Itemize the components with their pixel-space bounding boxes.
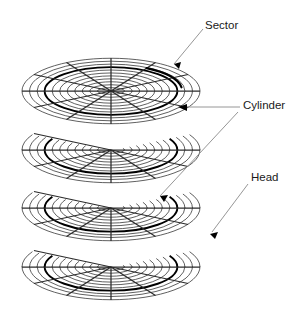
platter-1	[22, 58, 200, 124]
label-head: Head	[251, 171, 279, 183]
disk-geometry-diagram: SectorCylinderHead	[0, 0, 305, 314]
label-sector: Sector	[205, 19, 238, 31]
label-cylinder: Cylinder	[243, 99, 285, 111]
diagram-canvas: SectorCylinderHead	[0, 0, 305, 314]
